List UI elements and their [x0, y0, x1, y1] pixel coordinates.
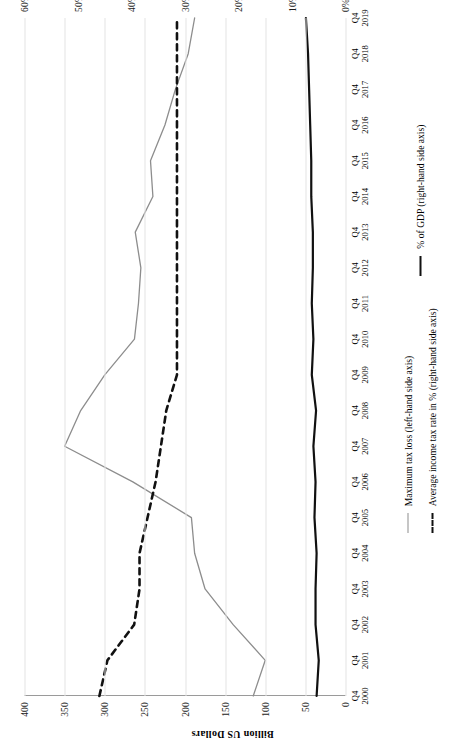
y-axis-tick-label: 250 [139, 702, 149, 717]
gridline [225, 18, 226, 696]
y2-axis-tick-label: 60% [19, 0, 29, 12]
legend-item-percent-of-gdp: % of GDP (right-hand side axis) [414, 125, 425, 276]
x-tick-quarter: Q4 [350, 45, 360, 62]
x-axis-tick-label: Q42001 [350, 652, 369, 669]
black-line-swatch-icon [419, 256, 421, 276]
x-tick-year: 2003 [360, 580, 370, 597]
gridline [104, 18, 105, 696]
x-axis-tick-label: Q42012 [350, 259, 369, 276]
x-tick-year: 2004 [360, 545, 370, 562]
x-tick-year: 2012 [360, 259, 370, 276]
x-tick-year: 2017 [360, 81, 370, 98]
x-axis-tick-label: Q42016 [350, 116, 369, 133]
y2-axis-tick-label: 10% [287, 0, 297, 12]
gridline [345, 18, 346, 696]
y2-axis-tick-label: 30% [180, 0, 190, 12]
x-tick-year: 2013 [360, 224, 370, 241]
x-axis-tick-label: Q42004 [350, 545, 369, 562]
x-tick-quarter: Q4 [350, 9, 360, 26]
rotated-chart-wrapper: Billion US Dollars 050100150200250300350… [0, 0, 463, 748]
y-axis-title: Billion US Dollars [172, 729, 292, 740]
y-axis-tick-label: 200 [180, 702, 190, 717]
x-tick-quarter: Q4 [350, 152, 360, 169]
x-axis-tick-label: Q42002 [350, 616, 369, 633]
gridline [24, 18, 25, 696]
x-tick-year: 2010 [360, 331, 370, 348]
legend-label: % of GDP (right-hand side axis) [414, 125, 425, 249]
x-axis-tick-label: Q42019 [350, 9, 369, 26]
series-line-2 [305, 18, 318, 696]
y2-axis-tick-label: 40% [126, 0, 136, 12]
chart-canvas: Billion US Dollars 050100150200250300350… [0, 0, 463, 748]
x-axis-tick-label: Q42018 [350, 45, 369, 62]
x-tick-quarter: Q4 [350, 116, 360, 133]
x-tick-year: 2009 [360, 366, 370, 383]
x-tick-year: 2019 [360, 9, 370, 26]
line-chart: Billion US Dollars 050100150200250300350… [0, 0, 463, 748]
x-tick-year: 2007 [360, 438, 370, 455]
x-axis-tick-label: Q42005 [350, 509, 369, 526]
legend-label: Maximum tax loss (left-hand side axis) [402, 356, 413, 507]
x-tick-year: 2016 [360, 116, 370, 133]
x-tick-quarter: Q4 [350, 81, 360, 98]
x-tick-quarter: Q4 [350, 188, 360, 205]
y2-axis-tick-label: 0% [340, 0, 350, 12]
x-axis-tick-label: Q42013 [350, 224, 369, 241]
x-tick-quarter: Q4 [350, 402, 360, 419]
gridline [305, 18, 306, 696]
gray-line-swatch-icon [407, 513, 408, 533]
x-axis-tick-label: Q42017 [350, 81, 369, 98]
x-tick-year: 2001 [360, 652, 370, 669]
x-tick-year: 2005 [360, 509, 370, 526]
y-axis-tick-label: 350 [59, 702, 69, 717]
y-axis-tick-label: 150 [220, 702, 230, 717]
series-line-1 [99, 18, 177, 696]
gridline [185, 18, 186, 696]
x-tick-year: 2014 [360, 188, 370, 205]
y-axis-tick-label: 100 [260, 702, 270, 717]
x-axis-tick-label: Q42000 [350, 687, 369, 704]
legend-label: Average income tax rate in % (right-hand… [426, 308, 437, 506]
x-tick-quarter: Q4 [350, 224, 360, 241]
x-axis-tick-label: Q42014 [350, 188, 369, 205]
x-tick-quarter: Q4 [350, 580, 360, 597]
dashed-line-swatch-icon [431, 513, 433, 533]
x-axis-tick-label: Q42008 [350, 402, 369, 419]
gridline [64, 18, 65, 696]
series-line-0 [64, 18, 265, 696]
x-tick-year: 2018 [360, 45, 370, 62]
x-axis-tick-label: Q42009 [350, 366, 369, 383]
x-tick-quarter: Q4 [350, 687, 360, 704]
x-tick-year: 2011 [360, 295, 370, 312]
x-axis-tick-label: Q42006 [350, 473, 369, 490]
x-tick-year: 2008 [360, 402, 370, 419]
y-axis-tick-label: 50 [300, 702, 310, 712]
x-tick-year: 2015 [360, 152, 370, 169]
plot-area: 0501001502002503003504000%10%20%30%40%50… [24, 18, 345, 696]
x-tick-year: 2006 [360, 473, 370, 490]
y-axis-tick-label: 300 [99, 702, 109, 717]
x-axis-tick-label: Q42003 [350, 580, 369, 597]
x-tick-year: 2000 [360, 687, 370, 704]
x-axis-tick-label: Q42010 [350, 331, 369, 348]
x-axis-tick-label: Q42011 [350, 295, 369, 312]
x-axis-tick-label: Q42007 [350, 438, 369, 455]
x-tick-quarter: Q4 [350, 473, 360, 490]
x-axis-tick-label: Q42015 [350, 152, 369, 169]
x-tick-quarter: Q4 [350, 438, 360, 455]
x-tick-quarter: Q4 [350, 545, 360, 562]
x-tick-quarter: Q4 [350, 331, 360, 348]
x-tick-quarter: Q4 [350, 259, 360, 276]
chart-legend: Maximum tax loss (left-hand side axis) A… [369, 18, 447, 696]
x-tick-quarter: Q4 [350, 616, 360, 633]
x-tick-year: 2002 [360, 616, 370, 633]
gridline [144, 18, 145, 696]
x-tick-quarter: Q4 [350, 295, 360, 312]
gridline [265, 18, 266, 696]
y2-axis-tick-label: 50% [73, 0, 83, 12]
y-axis-tick-label: 0 [340, 702, 350, 707]
x-tick-quarter: Q4 [350, 366, 360, 383]
legend-item-maximum-tax-loss: Maximum tax loss (left-hand side axis) [402, 356, 413, 534]
x-tick-quarter: Q4 [350, 652, 360, 669]
y-axis-tick-label: 400 [19, 702, 29, 717]
